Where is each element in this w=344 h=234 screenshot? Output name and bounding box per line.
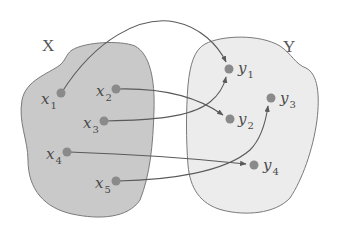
set-x-label: X — [42, 37, 54, 54]
point-y1 — [225, 65, 234, 74]
point-y4 — [250, 161, 259, 170]
label-x4-name: x — [46, 145, 54, 163]
label-y1-sub: 1 — [247, 69, 253, 80]
label-x1: x1 — [41, 92, 57, 107]
set-y-label: Y — [283, 38, 295, 55]
label-x1-name: x — [41, 90, 49, 108]
point-x5 — [112, 177, 121, 186]
label-y4: y4 — [263, 158, 279, 173]
label-y3: y3 — [280, 91, 296, 106]
label-x5-sub: 5 — [104, 184, 110, 195]
label-x4-sub: 4 — [55, 155, 61, 166]
label-x3: x3 — [83, 116, 99, 131]
label-x4: x4 — [46, 147, 62, 162]
label-x3-sub: 3 — [92, 124, 98, 135]
function-mapping-diagram: X Y x1 x2 x3 x4 x5 y1 y2 y3 y4 — [0, 0, 344, 234]
label-y2: y2 — [238, 112, 254, 127]
label-x5-name: x — [95, 174, 103, 192]
point-y3 — [267, 94, 276, 103]
label-y2-sub: 2 — [247, 120, 253, 131]
point-x3 — [100, 117, 109, 126]
point-y2 — [226, 115, 235, 124]
label-y4-name: y — [263, 156, 271, 174]
label-y4-sub: 4 — [272, 166, 278, 177]
label-y1-name: y — [238, 59, 246, 77]
label-y1: y1 — [238, 61, 254, 76]
label-x1-sub: 1 — [50, 100, 56, 111]
label-x2-sub: 2 — [105, 92, 111, 103]
label-x2: x2 — [96, 84, 112, 99]
point-x2 — [112, 85, 121, 94]
label-y3-name: y — [280, 89, 288, 107]
label-y2-name: y — [238, 110, 246, 128]
point-x4 — [63, 148, 72, 157]
label-x2-name: x — [96, 82, 104, 100]
label-x5: x5 — [95, 176, 111, 191]
label-y3-sub: 3 — [289, 99, 295, 110]
point-x1 — [57, 89, 66, 98]
label-x3-name: x — [83, 114, 91, 132]
